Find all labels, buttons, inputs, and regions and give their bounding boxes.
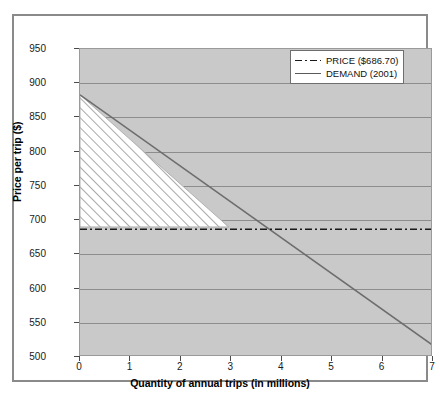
chart-frame: Price per trip ($) 500550600650700750800…: [12, 14, 428, 382]
x-tick-mark: [180, 356, 181, 361]
legend-item[interactable]: DEMAND (2001): [295, 67, 398, 80]
x-tick-mark: [281, 356, 282, 361]
x-tick-label: 7: [417, 361, 440, 372]
x-tick-mark: [432, 356, 433, 361]
legend-label: DEMAND (2001): [326, 68, 397, 79]
y-tick-label: 650: [6, 248, 46, 259]
x-tick-label: 5: [316, 361, 346, 372]
dash-dot-line-icon: [295, 56, 321, 66]
x-tick-mark: [382, 356, 383, 361]
x-axis-title: Quantity of annual trips (in millions): [14, 377, 426, 389]
x-tick-label: 3: [215, 361, 245, 372]
y-tick-label: 700: [6, 214, 46, 225]
consumer-surplus-region: [80, 95, 229, 227]
legend-item[interactable]: PRICE ($686.70): [295, 54, 398, 67]
x-tick-label: 6: [367, 361, 397, 372]
y-tick-label: 750: [6, 179, 46, 190]
x-tick-mark: [331, 356, 332, 361]
y-tick-label: 800: [6, 145, 46, 156]
solid-line-icon: [295, 69, 321, 79]
chart-figure: Price per trip ($) 500550600650700750800…: [0, 0, 440, 395]
y-tick-label: 900: [6, 77, 46, 88]
x-tick-mark: [230, 356, 231, 361]
x-tick-mark: [79, 356, 80, 361]
plot-area: [79, 48, 432, 356]
x-tick-mark: [129, 356, 130, 361]
y-tick-label: 600: [6, 282, 46, 293]
x-tick-label: 1: [114, 361, 144, 372]
y-tick-label: 500: [6, 351, 46, 362]
plot-graphics: [80, 49, 432, 356]
y-tick-label: 850: [6, 111, 46, 122]
x-tick-label: 2: [165, 361, 195, 372]
chart-legend[interactable]: PRICE ($686.70)DEMAND (2001): [290, 50, 404, 84]
x-tick-label: 4: [266, 361, 296, 372]
x-tick-label: 0: [64, 361, 94, 372]
y-tick-label: 950: [6, 43, 46, 54]
legend-label: PRICE ($686.70): [326, 55, 398, 66]
y-tick-label: 550: [6, 316, 46, 327]
